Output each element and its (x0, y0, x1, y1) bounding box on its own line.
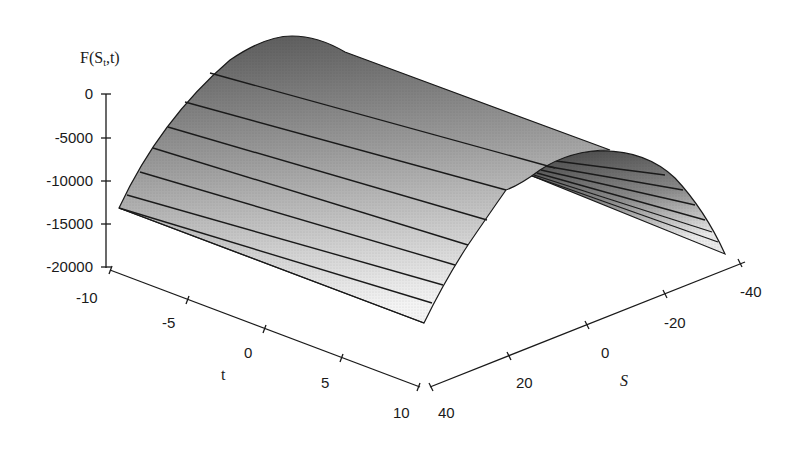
z-tick-label: -15000 (46, 216, 93, 231)
z-tick-label: 0 (85, 86, 93, 101)
z-tick-label: -10000 (46, 173, 93, 188)
z-axis-title: F(St,t) (80, 50, 120, 68)
s-tick-label: 40 (438, 405, 455, 420)
t-tick-label: -5 (162, 315, 175, 330)
t-tick-label: -10 (76, 290, 98, 305)
s-tick-label: -40 (740, 284, 762, 299)
z-tick-label: -20000 (46, 259, 93, 274)
surface-front-face (119, 36, 610, 323)
s-tick-label: 0 (601, 345, 609, 360)
t-tick-label: 5 (321, 375, 329, 390)
z-axis (101, 94, 111, 268)
surface-plot (0, 0, 798, 454)
s-axis-title: S (620, 373, 628, 389)
s-tick-label: -20 (664, 315, 686, 330)
t-tick-label: 0 (244, 345, 252, 360)
surface-back-face (530, 151, 725, 254)
z-tick-label: -5000 (55, 130, 93, 145)
t-axis-title: t (221, 367, 225, 383)
s-tick-label: 20 (516, 375, 533, 390)
t-tick-label: 10 (393, 405, 410, 420)
s-axis (429, 259, 745, 391)
